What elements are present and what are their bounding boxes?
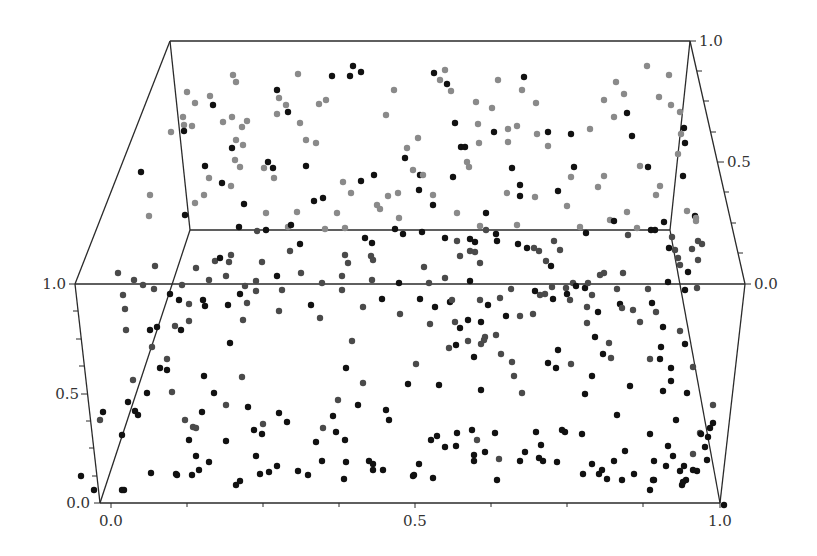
data-point bbox=[421, 264, 427, 270]
data-point bbox=[193, 265, 199, 271]
data-point bbox=[257, 471, 263, 477]
data-point bbox=[200, 297, 206, 303]
data-point bbox=[411, 472, 417, 478]
data-point bbox=[611, 114, 617, 120]
data-point bbox=[342, 252, 348, 258]
data-point bbox=[297, 241, 303, 247]
data-point bbox=[419, 229, 425, 235]
data-point bbox=[472, 249, 478, 255]
data-point bbox=[229, 145, 235, 151]
data-point bbox=[498, 351, 504, 357]
data-point bbox=[189, 472, 195, 478]
data-point bbox=[619, 305, 625, 311]
data-point bbox=[705, 434, 711, 440]
data-point bbox=[434, 433, 440, 439]
data-point bbox=[395, 190, 401, 196]
data-point bbox=[319, 458, 325, 464]
data-point bbox=[649, 300, 655, 306]
data-point bbox=[647, 487, 653, 493]
data-point bbox=[355, 402, 361, 408]
data-point bbox=[370, 467, 376, 473]
data-point bbox=[452, 120, 458, 126]
data-point bbox=[707, 425, 713, 431]
data-point bbox=[274, 87, 280, 93]
data-point bbox=[624, 209, 630, 215]
data-point bbox=[446, 345, 452, 351]
data-point bbox=[549, 284, 555, 290]
data-point bbox=[178, 327, 184, 333]
data-point bbox=[650, 477, 656, 483]
data-point bbox=[400, 231, 406, 237]
data-point bbox=[263, 210, 269, 216]
data-point bbox=[595, 309, 601, 315]
data-point bbox=[597, 272, 603, 278]
data-point bbox=[237, 291, 243, 297]
data-point bbox=[261, 165, 267, 171]
data-point bbox=[172, 323, 178, 329]
data-point bbox=[295, 468, 301, 474]
data-point bbox=[340, 179, 346, 185]
data-point bbox=[259, 259, 265, 265]
data-point bbox=[522, 449, 528, 455]
data-point bbox=[237, 164, 243, 170]
data-point bbox=[675, 151, 681, 157]
data-point bbox=[432, 304, 438, 310]
data-point bbox=[564, 203, 570, 209]
data-point bbox=[383, 407, 389, 413]
data-point bbox=[568, 361, 574, 367]
data-point bbox=[601, 97, 607, 103]
data-point bbox=[682, 140, 688, 146]
data-point bbox=[404, 145, 410, 151]
data-point bbox=[660, 324, 666, 330]
data-point bbox=[614, 412, 620, 418]
data-point bbox=[681, 125, 687, 131]
data-point bbox=[287, 248, 293, 254]
data-point bbox=[519, 390, 525, 396]
data-point bbox=[123, 327, 129, 333]
data-point bbox=[229, 114, 235, 120]
data-point bbox=[514, 222, 520, 228]
data-point bbox=[517, 182, 523, 188]
data-point bbox=[645, 164, 651, 170]
data-point bbox=[189, 123, 195, 129]
data-point bbox=[663, 463, 669, 469]
data-point bbox=[125, 399, 131, 405]
data-point bbox=[515, 241, 521, 247]
data-point bbox=[622, 448, 628, 454]
data-point bbox=[485, 302, 491, 308]
data-point bbox=[228, 252, 234, 258]
data-point bbox=[621, 91, 627, 97]
data-point bbox=[217, 255, 223, 261]
right-z-tick-label-2: 1.0 bbox=[699, 32, 723, 50]
data-point bbox=[442, 444, 448, 450]
data-point bbox=[320, 425, 326, 431]
data-point bbox=[244, 118, 250, 124]
data-point bbox=[311, 198, 317, 204]
data-point bbox=[284, 419, 290, 425]
data-point bbox=[521, 74, 527, 80]
data-point bbox=[147, 327, 153, 333]
data-point bbox=[276, 410, 282, 416]
data-point bbox=[530, 311, 536, 317]
data-point bbox=[625, 232, 631, 238]
data-point bbox=[157, 365, 163, 371]
data-point bbox=[503, 313, 509, 319]
data-point bbox=[545, 143, 551, 149]
data-point bbox=[369, 240, 375, 246]
data-point bbox=[251, 427, 257, 433]
data-point bbox=[385, 193, 391, 199]
data-point bbox=[335, 397, 341, 403]
data-point bbox=[567, 297, 573, 303]
axes-box bbox=[75, 41, 745, 503]
data-point bbox=[329, 73, 335, 79]
data-point bbox=[210, 102, 216, 108]
data-point bbox=[343, 459, 349, 465]
data-point bbox=[666, 245, 672, 251]
data-point bbox=[91, 487, 97, 493]
data-point bbox=[606, 340, 612, 346]
data-point bbox=[657, 356, 663, 362]
data-point bbox=[677, 109, 683, 115]
tick-marks bbox=[69, 41, 751, 508]
data-point bbox=[420, 172, 426, 178]
data-point bbox=[669, 234, 675, 240]
